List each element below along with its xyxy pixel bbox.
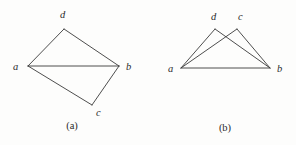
vertex-label-b: b	[126, 61, 131, 72]
vertex-label-d: d	[60, 9, 66, 20]
diagram-a-edges	[28, 29, 119, 105]
caption-a: (a)	[66, 120, 78, 132]
diagram-b: adcb (b)	[168, 11, 282, 134]
edge-a-d	[181, 29, 215, 68]
caption-b: (b)	[219, 122, 232, 134]
edge-d-b	[64, 29, 119, 66]
vertex-label-c: c	[96, 107, 101, 118]
vertex-label-a: a	[168, 63, 173, 74]
edge-a-c	[28, 66, 92, 105]
vertex-label-c: c	[238, 11, 243, 22]
edge-c-b	[92, 66, 119, 105]
edge-a-c	[181, 29, 237, 68]
edge-a-d	[28, 29, 64, 66]
vertex-label-a: a	[13, 61, 18, 72]
vertex-label-b: b	[277, 63, 282, 74]
figure-canvas: adbc (a) adcb (b)	[0, 0, 296, 145]
vertex-label-d: d	[211, 11, 217, 22]
diagram-b-edges	[181, 29, 270, 68]
diagram-a: adbc (a)	[13, 9, 131, 132]
figure-root: adbc (a) adcb (b)	[0, 0, 296, 145]
